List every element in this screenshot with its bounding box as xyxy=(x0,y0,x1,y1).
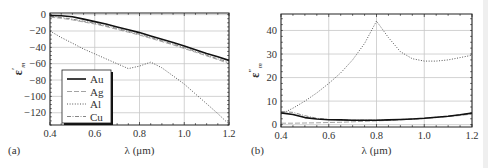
y-tick-label: −20 xyxy=(30,25,46,36)
legend-label-cu: Cu xyxy=(90,111,103,123)
x-tick-label: 0.8 xyxy=(370,130,383,141)
x-tick-label: 1.2 xyxy=(222,128,235,139)
chart-canvas: 0.40.60.81.01.20−20−40−60−80−100−120λ (μ… xyxy=(0,0,488,168)
legend-label-au: Au xyxy=(90,73,104,85)
y-tick-label: 20 xyxy=(267,72,278,83)
legend-label-al: Al xyxy=(90,98,101,110)
x-axis-label: λ (μm) xyxy=(362,144,392,157)
x-tick-label: 0.8 xyxy=(133,128,146,139)
y-axis-label: ε′m xyxy=(11,63,27,75)
x-tick-label: 0.6 xyxy=(322,130,335,141)
legend: AuAgAlCu xyxy=(62,70,113,125)
legend-label-ag: Ag xyxy=(90,86,104,98)
scroll-edge xyxy=(483,0,488,168)
x-tick-label: 0.4 xyxy=(274,130,288,141)
panel-label: (a) xyxy=(8,144,21,157)
y-tick-label: −40 xyxy=(30,42,46,53)
y-tick-label: −120 xyxy=(24,107,46,118)
y-tick-label: −60 xyxy=(30,58,46,69)
x-tick-label: 0.6 xyxy=(88,128,101,139)
y-tick-label: −80 xyxy=(30,75,46,86)
y-tick-label: 0 xyxy=(41,9,46,20)
y-axis-label: ε″m xyxy=(248,63,264,78)
y-tick-label: −100 xyxy=(24,91,46,102)
y-tick-label: 40 xyxy=(267,25,278,36)
y-tick-label: 0 xyxy=(272,119,277,130)
x-axis-label: λ (μm) xyxy=(125,144,155,157)
x-tick-label: 1.2 xyxy=(465,130,478,141)
panel-label: (b) xyxy=(251,144,264,157)
panel-a: 0.40.60.81.01.20−20−40−60−80−100−120λ (μ… xyxy=(8,9,236,157)
x-tick-label: 1.0 xyxy=(418,130,431,141)
gridlines xyxy=(281,14,472,127)
panel-b: 0.40.60.81.01.2010203040λ (μm)ε″m(b) xyxy=(248,14,479,157)
figure: 0.40.60.81.01.20−20−40−60−80−100−120λ (μ… xyxy=(0,0,488,168)
x-tick-label: 0.4 xyxy=(43,128,57,139)
y-tick-label: 30 xyxy=(267,49,278,60)
x-tick-label: 1.0 xyxy=(178,128,191,139)
y-tick-label: 10 xyxy=(267,96,278,107)
